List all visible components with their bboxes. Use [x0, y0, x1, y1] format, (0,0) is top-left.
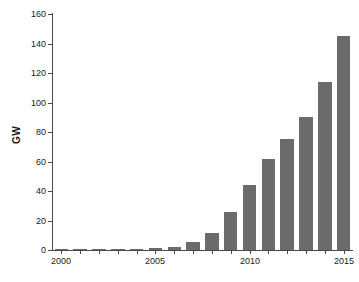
- y-axis-tick-label: 20: [0, 215, 52, 227]
- y-axis-tick-label: 120: [0, 67, 52, 79]
- x-axis-tick-label: 2000: [41, 256, 81, 266]
- x-axis-tick-mark: [174, 250, 175, 254]
- y-axis-tick-label: 140: [0, 38, 52, 50]
- bar: [280, 139, 294, 250]
- x-axis-tick-mark: [137, 250, 138, 254]
- x-axis-tick-label: 2005: [135, 256, 175, 266]
- x-axis-tick-mark: [344, 250, 345, 254]
- x-axis-tick-mark: [61, 250, 62, 254]
- x-axis-tick-mark: [250, 250, 251, 254]
- y-axis-tick-label: 160: [0, 8, 52, 20]
- x-axis-tick-mark: [306, 250, 307, 254]
- y-axis-tick-label: 0: [0, 244, 52, 256]
- x-axis-tick-mark: [268, 250, 269, 254]
- bar: [186, 242, 200, 250]
- bar: [299, 117, 313, 250]
- x-axis-tick-mark: [325, 250, 326, 254]
- x-axis-tick-mark: [99, 250, 100, 254]
- bar: [318, 82, 332, 250]
- bar-chart: GW 020406080100120140160 200020052010201…: [0, 0, 359, 282]
- x-axis-tick-mark: [212, 250, 213, 254]
- y-axis-tick-label: 60: [0, 156, 52, 168]
- bars-container: [52, 14, 353, 250]
- bar: [205, 233, 219, 250]
- x-axis-tick-mark: [118, 250, 119, 254]
- x-axis-tick-mark: [287, 250, 288, 254]
- y-axis-tick-label: 80: [0, 126, 52, 138]
- bar: [224, 212, 238, 250]
- x-axis-line: [52, 250, 353, 251]
- x-axis-tick-mark: [80, 250, 81, 254]
- x-axis-tick-label: 2010: [230, 256, 270, 266]
- y-axis-tick-label: 100: [0, 97, 52, 109]
- x-axis-tick-mark: [155, 250, 156, 254]
- x-axis-tick-label: 2015: [324, 256, 359, 266]
- y-axis-tick-label: 40: [0, 185, 52, 197]
- x-axis-tick-mark: [231, 250, 232, 254]
- bar: [262, 159, 276, 250]
- x-axis-tick-mark: [193, 250, 194, 254]
- bar: [243, 185, 257, 250]
- bar: [337, 36, 351, 250]
